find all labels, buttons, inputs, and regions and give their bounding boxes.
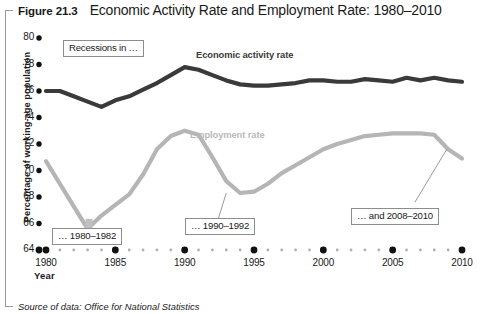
series-label-economic-activity-rate: Economic activity rate (196, 49, 293, 60)
figure-number: Figure 21.3 (18, 5, 78, 17)
figure-title-row: Figure 21.3 Economic Activity Rate and E… (18, 2, 478, 22)
page-frame-top-tick (5, 10, 13, 11)
series-line (46, 67, 462, 107)
plot-canvas (0, 24, 485, 286)
annotation-recessions: Recessions in … (63, 40, 144, 57)
page-frame-bottom-tick (5, 306, 13, 307)
series-label-employment-rate: Employment rate (190, 129, 265, 140)
annotation-leader-2008-2010 (415, 149, 447, 202)
source-note: Source of data: Office for National Stat… (18, 301, 199, 312)
data-series-group (46, 67, 462, 229)
annotation-2008-2010: … and 2008–2010 (351, 208, 439, 225)
x-axis-dotted-line (36, 247, 466, 254)
figure-title: Economic Activity Rate and Employment Ra… (90, 2, 442, 18)
annotation-1990-1992: … 1990–1992 (185, 218, 255, 235)
chart-area: Percentage of working-age population Yea… (0, 24, 485, 286)
annotation-leader-lines (82, 149, 447, 241)
annotation-1980-1982: … 1980–1982 (52, 228, 122, 245)
y-axis-tick-dots (36, 35, 41, 252)
